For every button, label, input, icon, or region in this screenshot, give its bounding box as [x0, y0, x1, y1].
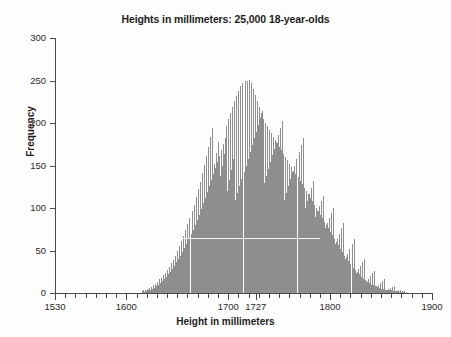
- x-tick-minor: [259, 294, 260, 298]
- x-tick-minor: [422, 294, 423, 298]
- x-tick-minor: [65, 294, 66, 298]
- x-tick-minor: [116, 294, 117, 298]
- x-tick-minor: [310, 294, 311, 298]
- y-axis-title: Frequency: [25, 72, 36, 192]
- x-tick-minor: [269, 294, 270, 298]
- x-tick-minor: [249, 294, 250, 298]
- x-tick-minor: [279, 294, 280, 298]
- plot-area: [55, 38, 432, 293]
- y-tick-label: 200: [0, 117, 46, 128]
- histogram-bar: [406, 292, 407, 293]
- x-tick-minor: [157, 294, 158, 298]
- y-tick-label: 50: [0, 245, 46, 256]
- x-tick-major: [228, 294, 229, 300]
- y-tick-label: 150: [0, 160, 46, 171]
- x-tick-minor: [106, 294, 107, 298]
- x-tick-minor: [187, 294, 188, 298]
- x-tick-minor: [300, 294, 301, 298]
- histogram-figure: Heights in millimeters: 25,000 18-year-o…: [0, 0, 451, 337]
- x-tick-minor: [147, 294, 148, 298]
- x-tick-minor: [401, 294, 402, 298]
- x-tick-major: [256, 294, 257, 300]
- x-tick-label: 1727: [245, 301, 266, 312]
- x-tick-minor: [137, 294, 138, 298]
- x-tick-minor: [208, 294, 209, 298]
- x-tick-minor: [320, 294, 321, 298]
- x-tick-label: 1800: [320, 301, 341, 312]
- x-tick-label: 1600: [116, 301, 137, 312]
- x-tick-minor: [86, 294, 87, 298]
- x-tick-minor: [177, 294, 178, 298]
- x-tick-minor: [167, 294, 168, 298]
- x-tick-minor: [340, 294, 341, 298]
- x-tick-major: [432, 294, 433, 300]
- y-tick-label: 100: [0, 202, 46, 213]
- x-tick-major: [126, 294, 127, 300]
- x-axis-title: Height in millimeters: [0, 316, 451, 327]
- x-axis-line: [55, 293, 433, 294]
- x-tick-minor: [198, 294, 199, 298]
- x-tick-minor: [350, 294, 351, 298]
- y-tick-label: 300: [0, 32, 46, 43]
- x-tick-minor: [371, 294, 372, 298]
- y-tick-label: 0: [0, 287, 46, 298]
- x-tick-minor: [391, 294, 392, 298]
- x-tick-minor: [361, 294, 362, 298]
- chart-title: Heights in millimeters: 25,000 18-year-o…: [0, 13, 451, 25]
- x-tick-label: 1530: [44, 301, 65, 312]
- x-tick-label: 1900: [421, 301, 442, 312]
- reference-line: [180, 238, 320, 239]
- y-tick-label: 250: [0, 75, 46, 86]
- x-tick-major: [55, 294, 56, 300]
- x-tick-minor: [75, 294, 76, 298]
- x-tick-label: 1700: [218, 301, 239, 312]
- x-tick-minor: [289, 294, 290, 298]
- x-tick-minor: [238, 294, 239, 298]
- x-tick-minor: [218, 294, 219, 298]
- x-tick-major: [330, 294, 331, 300]
- x-tick-minor: [96, 294, 97, 298]
- x-tick-minor: [381, 294, 382, 298]
- histogram-bars: [55, 38, 432, 293]
- x-tick-minor: [412, 294, 413, 298]
